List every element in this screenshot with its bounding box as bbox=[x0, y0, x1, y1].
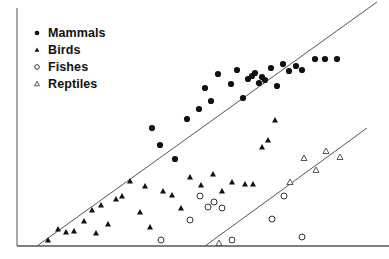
data-point bbox=[216, 240, 222, 246]
lower-regression-line bbox=[205, 128, 367, 246]
data-point bbox=[147, 224, 153, 230]
data-point bbox=[299, 234, 305, 240]
data-point bbox=[98, 202, 104, 208]
data-point bbox=[234, 67, 240, 73]
series-mammals bbox=[149, 56, 340, 162]
data-point bbox=[293, 63, 299, 69]
data-point bbox=[219, 205, 225, 211]
data-point bbox=[274, 83, 280, 89]
data-point bbox=[71, 228, 77, 234]
data-point bbox=[158, 237, 164, 243]
filled-circle-icon bbox=[30, 26, 44, 40]
data-point bbox=[265, 137, 271, 143]
scatter-plot-figure: Mammals Birds Fishes Reptiles bbox=[0, 0, 389, 259]
data-point bbox=[259, 144, 265, 150]
data-point bbox=[210, 171, 216, 177]
series-reptiles bbox=[216, 148, 343, 246]
data-point bbox=[137, 209, 143, 215]
data-point bbox=[229, 179, 235, 185]
data-point bbox=[281, 193, 287, 199]
legend-entry-birds: Birds bbox=[30, 41, 106, 58]
data-point bbox=[142, 183, 148, 189]
data-point bbox=[287, 179, 293, 185]
data-point bbox=[323, 148, 329, 154]
series-fishes bbox=[158, 193, 305, 243]
data-point bbox=[219, 188, 225, 194]
data-point bbox=[334, 56, 340, 62]
legend-entry-mammals: Mammals bbox=[30, 24, 106, 41]
data-point bbox=[196, 106, 202, 112]
data-point bbox=[301, 155, 307, 161]
data-point bbox=[208, 98, 214, 104]
legend-entry-fishes: Fishes bbox=[30, 58, 106, 75]
data-point bbox=[242, 181, 248, 187]
data-point bbox=[262, 77, 268, 83]
data-point bbox=[280, 61, 286, 67]
legend: Mammals Birds Fishes Reptiles bbox=[30, 24, 106, 92]
data-point bbox=[299, 67, 305, 73]
data-point bbox=[211, 199, 217, 205]
data-point bbox=[256, 80, 262, 86]
data-point bbox=[63, 229, 69, 235]
data-point bbox=[184, 116, 190, 122]
data-point bbox=[229, 237, 235, 243]
legend-label-birds: Birds bbox=[44, 43, 80, 57]
data-point bbox=[81, 218, 87, 224]
data-point bbox=[149, 125, 155, 131]
data-point bbox=[337, 154, 343, 160]
legend-entry-reptiles: Reptiles bbox=[30, 75, 106, 92]
data-point bbox=[228, 81, 234, 87]
filled-triangle-icon bbox=[30, 43, 44, 57]
data-point bbox=[240, 95, 246, 101]
data-point bbox=[272, 117, 278, 123]
data-point bbox=[187, 174, 193, 180]
data-point bbox=[202, 85, 208, 91]
data-point bbox=[312, 56, 318, 62]
data-point bbox=[269, 216, 275, 222]
data-point bbox=[286, 68, 292, 74]
data-point bbox=[322, 56, 328, 62]
data-point bbox=[313, 167, 319, 173]
data-point bbox=[157, 142, 163, 148]
data-point bbox=[169, 192, 175, 198]
data-point bbox=[252, 70, 258, 76]
legend-label-fishes: Fishes bbox=[44, 60, 88, 74]
data-point bbox=[160, 188, 166, 194]
data-point bbox=[215, 71, 221, 77]
data-point bbox=[268, 65, 274, 71]
data-point bbox=[178, 205, 184, 211]
series-birds bbox=[45, 117, 278, 243]
data-point bbox=[197, 193, 203, 199]
data-point bbox=[198, 182, 204, 188]
data-point bbox=[172, 156, 178, 162]
data-point bbox=[187, 217, 193, 223]
data-point bbox=[105, 221, 111, 227]
data-point bbox=[119, 193, 125, 199]
data-point bbox=[55, 226, 61, 232]
data-point bbox=[205, 204, 211, 210]
open-circle-icon bbox=[30, 60, 44, 74]
legend-label-mammals: Mammals bbox=[44, 26, 106, 40]
data-point bbox=[93, 230, 99, 236]
open-triangle-icon bbox=[30, 77, 44, 91]
legend-label-reptiles: Reptiles bbox=[44, 77, 97, 91]
data-point bbox=[113, 196, 119, 202]
data-point bbox=[250, 181, 256, 187]
